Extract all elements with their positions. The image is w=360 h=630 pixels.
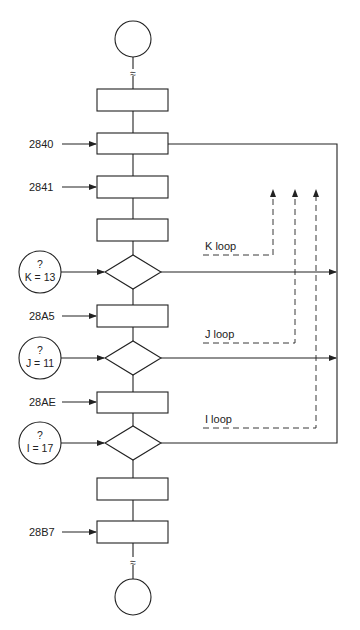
- k-loop-label: K loop: [205, 240, 236, 252]
- j-loop-arrow-icon: [292, 189, 298, 197]
- end-terminal: [115, 579, 151, 615]
- process-box-7: [97, 478, 168, 500]
- condition-k-expr: K = 13: [25, 271, 56, 283]
- condition-i-question: ?: [37, 429, 43, 441]
- decision-diamond-k: [105, 255, 161, 289]
- address-label-28B7: 28B7: [29, 526, 55, 538]
- i-loop-path: [203, 195, 316, 428]
- process-box-4: [97, 219, 168, 241]
- address-label-2840: 2840: [29, 138, 53, 150]
- condition-j-expr: J = 11: [26, 357, 54, 369]
- process-box-28B7: [97, 521, 168, 543]
- process-box-28A5: [97, 305, 168, 327]
- i-loop-arrow-icon: [313, 189, 319, 197]
- address-label-28AE: 28AE: [29, 396, 56, 408]
- return-path: [161, 144, 337, 443]
- process-box-1: [97, 89, 168, 111]
- j-loop-label: J loop: [205, 328, 234, 340]
- start-terminal: [115, 21, 151, 57]
- address-label-2841: 2841: [29, 181, 53, 193]
- process-box-2840: [97, 133, 168, 154]
- condition-j-question: ?: [37, 344, 43, 356]
- decision-diamond-i: [105, 426, 161, 460]
- i-loop-label: I loop: [205, 413, 232, 425]
- address-label-28A5: 28A5: [29, 310, 55, 322]
- process-box-28AE: [97, 392, 168, 413]
- decision-diamond-j: [105, 341, 161, 375]
- process-box-2841: [97, 176, 168, 198]
- condition-i-expr: I = 17: [27, 442, 54, 454]
- k-loop-arrow-icon: [270, 189, 276, 197]
- break-symbol-top: ≈: [130, 68, 136, 79]
- j-loop-path: [203, 195, 295, 343]
- break-symbol-bottom: ≈: [130, 557, 136, 568]
- flowchart: ≈ ≈ 2840 2841 28A5 28AE 28B7 ? K = 13 ? …: [0, 0, 360, 630]
- condition-k-question: ?: [37, 258, 43, 270]
